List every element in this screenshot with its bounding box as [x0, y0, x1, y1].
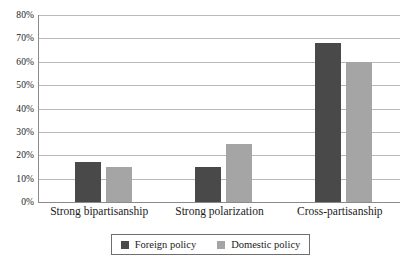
category-label: Cross-partisanship	[280, 204, 400, 219]
legend-label: Domestic policy	[231, 239, 300, 251]
bar-group	[315, 15, 372, 202]
bar	[75, 162, 101, 202]
bar-group	[195, 15, 252, 202]
bar	[195, 167, 221, 202]
gridline-0	[38, 202, 400, 203]
bar	[315, 43, 341, 202]
chart-legend: Foreign policyDomestic policy	[111, 234, 310, 255]
legend-swatch-icon	[121, 241, 129, 249]
y-tick-label-0: 0%	[0, 197, 34, 207]
bar	[106, 167, 132, 202]
y-tick-label-50: 50%	[0, 80, 34, 90]
y-tick-label-80: 80%	[0, 10, 34, 20]
bars-layer	[39, 15, 400, 202]
legend-item: Foreign policy	[121, 239, 197, 251]
y-tick-label-70: 70%	[0, 33, 34, 43]
y-tick-label-20: 20%	[0, 150, 34, 160]
legend-swatch-icon	[217, 241, 225, 249]
y-tick-label-30: 30%	[0, 127, 34, 137]
category-label: Strong bipartisanship	[39, 204, 159, 219]
legend-item: Domestic policy	[217, 239, 300, 251]
bar-chart: 0%10%20%30%40%50%60%70%80% Strong bipart…	[0, 0, 414, 264]
x-axis-category-labels: Strong bipartisanshipStrong polarization…	[39, 204, 400, 222]
y-tick-label-10: 10%	[0, 174, 34, 184]
bar	[346, 62, 372, 202]
bar-group	[75, 15, 132, 202]
y-tick-label-60: 60%	[0, 57, 34, 67]
category-label: Strong polarization	[159, 204, 279, 219]
legend-label: Foreign policy	[135, 239, 197, 251]
y-tick-label-40: 40%	[0, 104, 34, 114]
bar	[226, 144, 252, 202]
